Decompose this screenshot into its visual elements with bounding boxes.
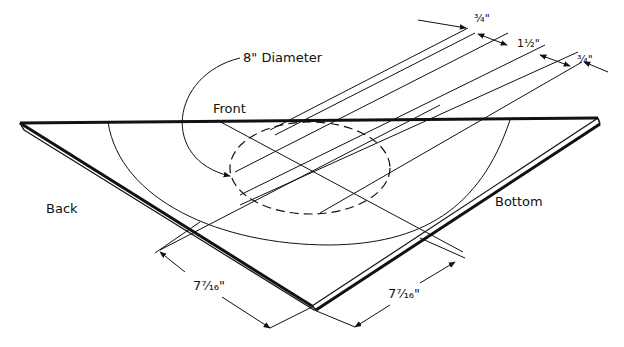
dim-top-2-label: 1¹⁄₂" [517, 37, 540, 50]
dim-right-label: 7⁷⁄₁₆" [388, 286, 420, 301]
diameter-label: 8" Diameter [243, 50, 323, 65]
isometric-board-drawing: 8" Diameter Front Back Bottom 7⁷⁄₁₆" 7⁷⁄… [0, 0, 624, 347]
center-line-diagonal [217, 120, 463, 252]
dim-top-1-label: ³⁄₄" [474, 12, 490, 25]
bottom-label: Bottom [495, 194, 543, 209]
front-label: Front [213, 101, 246, 116]
dim-top-3-label: ³⁄₄" [577, 53, 593, 66]
back-label: Back [46, 201, 78, 216]
dim-left-label: 7⁷⁄₁₆" [193, 278, 225, 293]
slot-lines [160, 28, 582, 250]
